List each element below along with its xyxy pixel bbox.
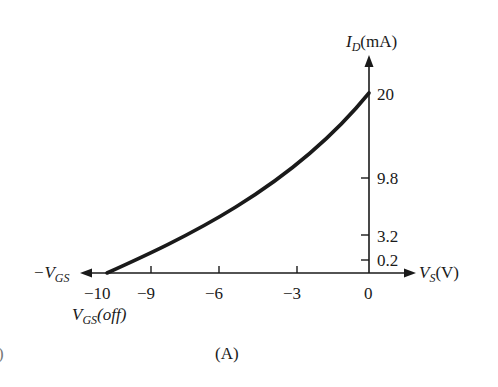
vgs-off-annotation: VGS(off) — [72, 306, 126, 323]
plot-canvas — [0, 0, 498, 387]
y-tick-label-0-2: 0.2 — [377, 252, 398, 269]
left-edge-fragment: ) — [0, 345, 4, 362]
neg-label-main: −V — [33, 263, 55, 282]
x-tick-label--3: −3 — [283, 285, 301, 302]
x-axis-label: VS(V) — [419, 264, 459, 281]
x-tick-label-0: 0 — [364, 285, 373, 302]
neg-label-sub: GS — [55, 271, 70, 285]
transfer-curve — [107, 93, 369, 273]
y-label-sub: D — [352, 40, 361, 54]
y-axis-label: ID(mA) — [346, 33, 397, 50]
y-tick-label-20: 20 — [377, 86, 394, 103]
y-label-unit: (mA) — [360, 32, 397, 51]
x-label-sub: S — [429, 271, 435, 285]
neg-vgs-label: −VGS — [33, 264, 70, 281]
x-axis-right-arrow-icon — [404, 269, 416, 278]
y-axis-arrow-icon — [365, 55, 374, 67]
y-tick-label-3-2: 3.2 — [377, 228, 398, 245]
figure-label: (A) — [215, 345, 239, 362]
x-label-unit: (V) — [435, 263, 459, 282]
off-sub: GS — [82, 313, 97, 327]
x-tick-label--9: −9 — [137, 285, 155, 302]
y-label-main: I — [346, 32, 352, 51]
x-label-main: V — [419, 263, 429, 282]
off-suffix: (off) — [97, 305, 126, 324]
x-axis-left-arrow-icon — [80, 269, 92, 278]
x-tick-label--10: −10 — [84, 285, 111, 302]
x-tick-label--6: −6 — [205, 285, 223, 302]
y-tick-label-9-8: 9.8 — [377, 170, 398, 187]
off-main: V — [72, 305, 82, 324]
